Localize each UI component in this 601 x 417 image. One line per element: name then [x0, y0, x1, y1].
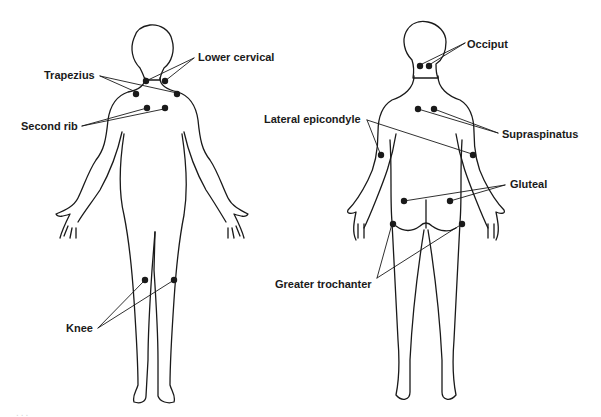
- label-trapezius: Trapezius: [44, 69, 95, 81]
- point-lower-cervical-left: [143, 78, 149, 84]
- label-knee: Knee: [66, 322, 93, 334]
- point-gluteal-right: [447, 198, 453, 204]
- point-supraspinatus-right: [431, 106, 437, 112]
- label-second-rib: Second rib: [21, 120, 78, 132]
- label-greater-trochanter: Greater trochanter: [275, 278, 372, 290]
- point-second-rib-right: [162, 105, 168, 111]
- point-second-rib-left: [144, 105, 150, 111]
- tender-points: [133, 63, 476, 283]
- point-lateral-epicondyle-left: [378, 152, 384, 158]
- point-knee-right: [171, 277, 177, 283]
- front-body-outline: [56, 25, 248, 403]
- label-occiput: Occiput: [467, 38, 508, 50]
- point-lateral-epicondyle-right: [470, 152, 476, 158]
- tender-points-diagram: [0, 0, 601, 417]
- point-knee-left: [142, 277, 148, 283]
- point-lower-cervical-right: [162, 78, 168, 84]
- point-greater-trochanter-left: [390, 221, 396, 227]
- point-supraspinatus-left: [415, 106, 421, 112]
- label-lateral-epicondyle: Lateral epicondyle: [264, 113, 361, 125]
- point-trapezius-left: [133, 91, 139, 97]
- label-gluteal: Gluteal: [510, 178, 547, 190]
- point-occiput-left: [417, 63, 423, 69]
- point-trapezius-right: [174, 91, 180, 97]
- point-greater-trochanter-right: [459, 221, 465, 227]
- back-body-outline: [348, 21, 505, 399]
- label-supraspinatus: Supraspinatus: [502, 128, 578, 140]
- label-lower-cervical: Lower cervical: [198, 51, 274, 63]
- point-gluteal-left: [401, 198, 407, 204]
- point-occiput-right: [426, 63, 432, 69]
- figure-caption-partial: ...: [16, 407, 30, 417]
